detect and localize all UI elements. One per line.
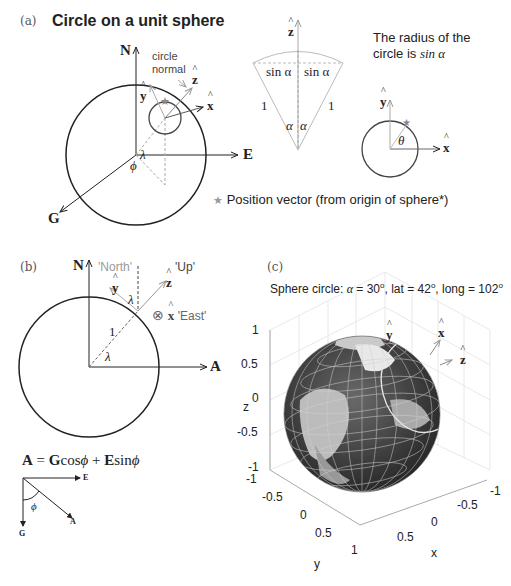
radius-note-line2: circle is sin α — [373, 46, 445, 62]
svg-text:★: ★ — [160, 95, 170, 107]
panel-a-label: (a) — [20, 14, 37, 28]
x-tick-neg-0-5: -0.5 — [457, 498, 478, 512]
globe-x-hat: x — [438, 325, 445, 341]
circle-normal-label-line2: normal — [152, 63, 186, 75]
x-hat-symbol: x — [207, 98, 214, 114]
legend-text: Position vector (from origin of sphere*) — [227, 192, 449, 207]
phi-angle-label: ϕ — [130, 158, 137, 174]
y-tick-0-5: 0.5 — [315, 526, 332, 540]
cone-side-left: 1 — [261, 98, 268, 114]
x-tick-0-5: 0.5 — [397, 530, 414, 544]
title-alpha-value: = 30 — [353, 282, 380, 296]
lambda-angle-label: λ — [140, 147, 146, 163]
x-hat-label: x — [207, 98, 214, 114]
north-axis-label: N — [120, 42, 131, 59]
star-icon: ★ — [213, 194, 223, 206]
east-label: ⊗ x 'East' — [152, 307, 206, 324]
z-tick-0-5: 0.5 — [241, 357, 258, 371]
panel-c-label: (c) — [267, 260, 283, 274]
globe-z-hat: z — [460, 352, 466, 368]
cone-alpha-right: α — [300, 118, 307, 134]
equation: A = Gcosϕ + Esinϕ — [22, 452, 140, 469]
inset-e-label: E — [83, 473, 88, 482]
panel-b-a-axis: A — [210, 358, 221, 375]
z-axis-label: z — [243, 400, 249, 414]
panel-b-y-hat: y — [112, 280, 119, 296]
z-tick-1: 1 — [252, 323, 259, 337]
eq-g: G — [49, 452, 61, 468]
east-axis-label: E — [243, 146, 253, 163]
radius-note-prefix: circle is — [373, 46, 420, 61]
z-hat-label: z — [192, 72, 198, 88]
panel-b-y-hat-symbol: y — [112, 280, 119, 296]
y-axis-label: y — [314, 557, 320, 571]
lambda-bottom-label: λ — [105, 349, 111, 365]
circle-normal-label-line1: circle — [152, 50, 178, 62]
radius-one-label: 1 — [109, 324, 116, 340]
y-tick-0: 0 — [300, 508, 307, 522]
theta-circle-y-hat-symbol: y — [380, 94, 387, 110]
radius-note-line1: The radius of the — [373, 30, 471, 45]
panel-c-title: Sphere circle: α = 30o, lat = 42o, long … — [270, 281, 503, 297]
title-long: , long = 102 — [435, 282, 498, 296]
up-quote-label: 'Up' — [175, 260, 195, 274]
theta-label: θ — [398, 133, 404, 149]
y-tick-neg-0-5: -0.5 — [262, 490, 283, 504]
x-axis-label: x — [431, 546, 437, 560]
globe-y-hat: y — [386, 327, 393, 343]
z-hat-symbol: z — [192, 72, 198, 88]
y-hat-label: y — [140, 88, 147, 104]
panel-b-label: (b) — [20, 260, 37, 274]
lambda-top-label: λ — [128, 292, 134, 308]
panel-b-x-hat-symbol: x — [168, 308, 175, 324]
globe-y-hat-symbol: y — [386, 327, 393, 343]
title-lat: , lat = 42 — [385, 282, 431, 296]
y-tick-1: 1 — [351, 543, 358, 557]
g-axis-label: G — [48, 210, 60, 227]
inset-a-label: A — [70, 517, 76, 526]
cone-sin-left: sin α — [266, 64, 291, 80]
cone-z-hat-label: z — [288, 24, 294, 40]
eq-plus: + — [88, 452, 104, 468]
radius-note-math: sin α — [420, 46, 445, 61]
x-tick-0: 0 — [431, 515, 438, 529]
theta-circle-y-hat: y — [380, 94, 387, 110]
cone-z-hat-symbol: z — [288, 24, 294, 40]
degree-3: o — [498, 281, 502, 290]
globe — [282, 327, 469, 492]
eq-phi2: ϕ — [132, 452, 140, 468]
inset-phi-label: ϕ — [31, 500, 37, 512]
otimes-icon: ⊗ — [152, 307, 164, 323]
eq-cos: cos — [60, 452, 80, 468]
eq-sin: sin — [114, 452, 132, 468]
theta-circle-x-hat: x — [443, 140, 450, 156]
cone-sin-right: sin α — [304, 64, 329, 80]
y-hat-symbol: y — [140, 88, 147, 104]
cone-side-right: 1 — [328, 98, 335, 114]
theta-circle-x-hat-symbol: x — [443, 140, 450, 156]
east-quote-label: 'East' — [178, 309, 207, 323]
x-tick-neg-1: -1 — [490, 484, 501, 498]
eq-a: A — [22, 452, 33, 468]
panel-b-north-axis: N — [73, 257, 84, 274]
panel-b-z-hat: z — [166, 275, 172, 291]
globe-z-hat-symbol: z — [460, 352, 466, 368]
globe-x-hat-symbol: x — [438, 325, 445, 341]
cone-alpha-left: α — [286, 118, 293, 134]
y-tick-neg-1: -1 — [246, 472, 257, 486]
title-prefix: Sphere circle: — [270, 282, 347, 296]
eq-equals: = — [33, 452, 49, 468]
z-tick-neg-0-5: -0.5 — [237, 425, 258, 439]
eq-e: E — [104, 452, 114, 468]
panel-a-title: Circle on a unit sphere — [52, 12, 224, 30]
panel-b-z-hat-symbol: z — [166, 275, 172, 291]
inset-g-label: G — [19, 529, 25, 538]
z-tick-0: 0 — [252, 391, 259, 405]
svg-text:★: ★ — [402, 117, 411, 128]
position-vector-legend: ★ Position vector (from origin of sphere… — [213, 192, 448, 207]
